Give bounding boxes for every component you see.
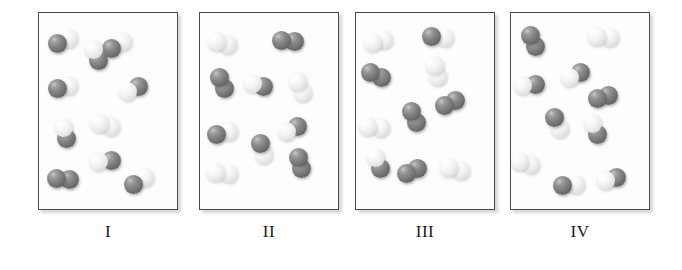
light-atom [243, 74, 262, 93]
dark-atom [402, 102, 421, 121]
panel-box-i [38, 12, 178, 210]
light-atom [425, 56, 444, 75]
light-atom [596, 171, 615, 190]
light-atom [118, 82, 137, 101]
panel-label-i: I [38, 222, 178, 242]
dark-atom [435, 96, 454, 115]
dark-atom [48, 79, 67, 98]
light-atom [54, 118, 73, 137]
light-atom [84, 40, 103, 59]
dark-atom [545, 108, 564, 127]
dark-atom [361, 63, 380, 82]
panel-box-iv [510, 12, 650, 210]
panel-label-ii: II [199, 222, 339, 242]
dark-atom [289, 148, 308, 167]
dark-atom [207, 125, 226, 144]
light-atom [366, 148, 385, 167]
panel-iv [510, 12, 650, 210]
panel-iii [355, 12, 495, 210]
panel-ii [199, 12, 339, 210]
panel-box-ii [199, 12, 339, 210]
dark-atom [588, 89, 607, 108]
light-atom [560, 68, 579, 87]
light-atom [363, 33, 382, 52]
dark-atom [397, 164, 416, 183]
light-atom [90, 114, 109, 133]
molecular-diagram-figure: IIIIIIIV [0, 0, 682, 270]
panel-box-iii [355, 12, 495, 210]
light-atom [207, 32, 226, 51]
dark-atom [124, 175, 143, 194]
dark-atom [210, 68, 229, 87]
panel-i [38, 12, 178, 210]
light-atom [510, 152, 529, 171]
panel-label-iv: IV [510, 222, 650, 242]
light-atom [439, 158, 458, 177]
panel-label-iii: III [355, 222, 495, 242]
dark-atom [251, 134, 270, 153]
light-atom [277, 122, 296, 141]
dark-atom [48, 34, 67, 53]
